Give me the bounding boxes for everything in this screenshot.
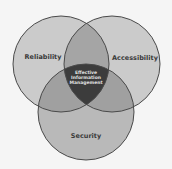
venn-svg: Reliability Accessibility Security Effec… (0, 0, 172, 169)
label-reliability: Reliability (25, 53, 63, 61)
label-security: Security (71, 132, 102, 140)
center-label-line3: Management (69, 80, 103, 85)
label-accessibility: Accessibility (112, 54, 159, 62)
venn-diagram: Reliability Accessibility Security Effec… (0, 0, 172, 169)
